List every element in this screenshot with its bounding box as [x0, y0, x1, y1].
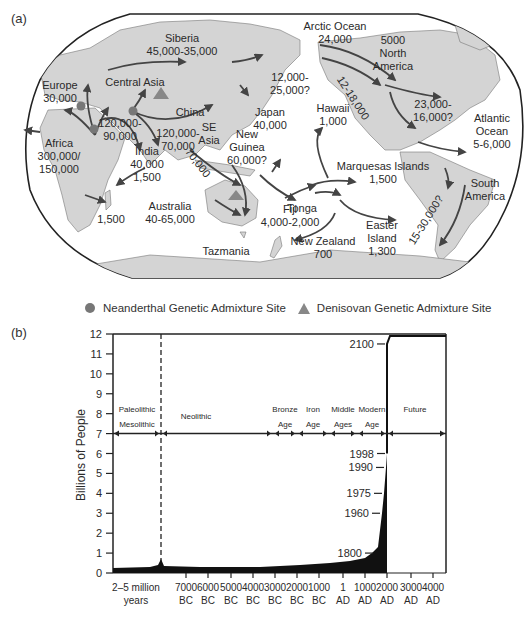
- x-tick-label: 4000: [422, 582, 445, 593]
- x-tick-label: 1000: [354, 582, 377, 593]
- map-label: AtlanticOcean5-6,000: [473, 112, 510, 150]
- era-label: Modern: [358, 405, 385, 414]
- y-tick-label: 2: [96, 527, 102, 539]
- y-tick-label: 10: [90, 368, 102, 380]
- x-tick-label: 2–5 million: [112, 582, 160, 593]
- projection-line: [387, 336, 446, 454]
- year-annotation: 1960: [345, 507, 369, 519]
- x-tick-label: BC: [312, 595, 326, 606]
- x-tick-label: 7000: [175, 582, 198, 593]
- map-label: Australia40-65,000: [145, 200, 195, 225]
- y-tick-label: 12: [90, 328, 102, 340]
- x-tick-label: 6000: [197, 582, 220, 593]
- x-tick-label: BC: [268, 595, 282, 606]
- denisovan-legend-label: Denisovan Genetic Admixture Site: [317, 302, 492, 314]
- era-label: Middle: [331, 405, 355, 414]
- map-label: China: [176, 106, 206, 118]
- era-label: Age: [278, 420, 293, 429]
- x-tick-label: 2000: [376, 582, 399, 593]
- x-tick-label: BC: [179, 595, 193, 606]
- x-tick-label: BC: [246, 595, 260, 606]
- year-annotation: 2100: [350, 338, 374, 350]
- y-tick-label: 3: [96, 507, 102, 519]
- x-tick-label: AD: [426, 595, 440, 606]
- x-tick-label: 3000: [400, 582, 423, 593]
- x-tick-label: 5000: [220, 582, 243, 593]
- neanderthal-legend-label: Neanderthal Genetic Admixture Site: [103, 302, 286, 314]
- y-tick-label: 6: [96, 448, 102, 460]
- map-label: EasterIsland1,300: [366, 219, 398, 257]
- year-annotation: 1990: [349, 461, 373, 473]
- era-label: Iron: [306, 405, 320, 414]
- era-label: Mesolithic: [119, 420, 155, 429]
- era-label: Age: [306, 420, 321, 429]
- map-label: India40,0001,500: [130, 145, 164, 183]
- map-legend: Neanderthal Genetic Admixture Site Denis…: [85, 302, 491, 314]
- denisovan-legend-icon: [298, 303, 310, 314]
- x-tick-label: 1000: [308, 582, 331, 593]
- y-axis-label: Billions of People: [74, 409, 88, 501]
- x-tick-label: years: [124, 595, 148, 606]
- map-label: Japan40,000: [253, 106, 287, 131]
- x-tick-label: 1: [340, 582, 346, 593]
- map-label: 120,000-90,000: [98, 117, 142, 142]
- y-tick-label: 9: [96, 388, 102, 400]
- y-tick-label: 1: [96, 547, 102, 559]
- x-tick-label: 4000: [242, 582, 265, 593]
- map-label: Central Asia: [105, 76, 165, 88]
- era-label: Neolithic: [181, 412, 212, 421]
- neanderthal-legend-icon: [85, 303, 95, 313]
- world-migration-map: Siberia45,000-35,000Europe30,000Central …: [0, 0, 532, 300]
- y-tick-label: 0: [96, 567, 102, 579]
- x-tick-label: 2000: [286, 582, 309, 593]
- y-tick-label: 7: [96, 428, 102, 440]
- x-tick-label: AD: [380, 595, 394, 606]
- map-label: Tazmania: [202, 245, 250, 257]
- x-tick-label: BC: [201, 595, 215, 606]
- map-label: 23,000-16,000?: [413, 98, 453, 123]
- y-tick-label: 4: [96, 487, 102, 499]
- population-chart: 0123456789101112Billions of People2–5 mi…: [0, 320, 532, 617]
- neanderthal-site-europe: [77, 102, 86, 111]
- era-label: Future: [403, 405, 427, 414]
- x-tick-label: BC: [290, 595, 304, 606]
- y-tick-label: 5: [96, 467, 102, 479]
- year-annotation: 1800: [338, 547, 362, 559]
- map-label: Europe30,000: [42, 79, 77, 104]
- era-label: Bronze: [272, 405, 298, 414]
- map-label: Hawaii1,000: [316, 102, 349, 127]
- era-label: Paleolithic: [119, 405, 155, 414]
- year-annotation: 1998: [350, 448, 374, 460]
- map-label: 1,500: [97, 213, 125, 225]
- era-label: Ages: [334, 420, 352, 429]
- x-tick-label: AD: [358, 595, 372, 606]
- x-tick-label: 3000: [264, 582, 287, 593]
- map-label: 12,000-25,000?: [270, 71, 310, 96]
- era-label: Age: [365, 420, 380, 429]
- y-tick-label: 11: [91, 348, 102, 360]
- x-tick-label: AD: [404, 595, 418, 606]
- neanderthal-site-levant: [90, 125, 99, 134]
- x-tick-label: AD: [336, 595, 350, 606]
- map-label: Tonga: [287, 202, 318, 214]
- neanderthal-site-central-asia: [129, 107, 138, 116]
- x-tick-label: BC: [224, 595, 238, 606]
- year-annotation: 1975: [347, 487, 371, 499]
- y-tick-label: 8: [96, 408, 102, 420]
